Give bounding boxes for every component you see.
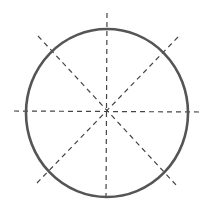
circle-symmetry-diagram [0, 0, 204, 200]
symmetry-axes [14, 13, 200, 200]
diagonal-axis-tl-br [38, 36, 177, 186]
vertical-axis [106, 13, 107, 200]
